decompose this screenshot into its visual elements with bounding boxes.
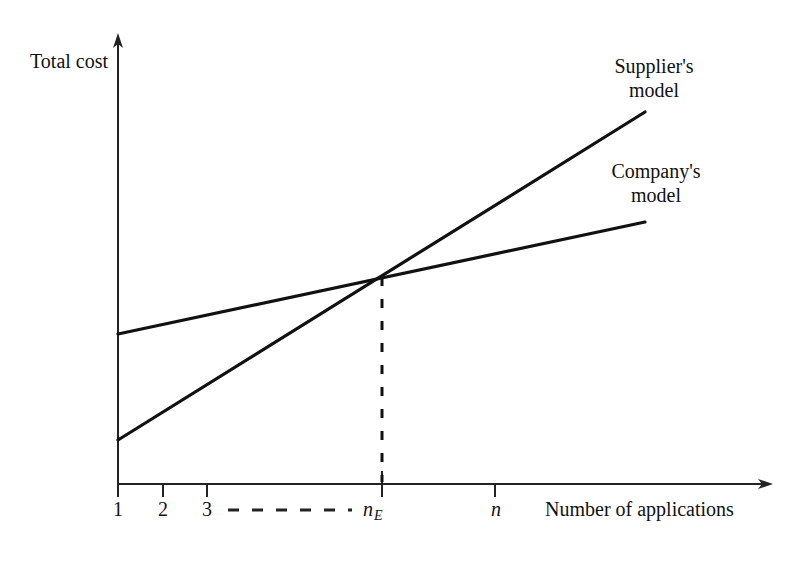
x-tick-label-ne-subscript: E — [374, 508, 383, 523]
series-label-suppliers-model-line1: Supplier's — [598, 55, 710, 79]
x-tick-label-2: 2 — [153, 498, 173, 522]
x-tick-label-1: 1 — [108, 498, 128, 522]
series-label-suppliers-model-line2: model — [598, 79, 710, 103]
x-tick-label-n: n — [486, 498, 506, 522]
x-axis — [118, 479, 773, 489]
y-axis — [113, 33, 123, 484]
chart-figure: Total cost Number of applications Suppli… — [0, 0, 811, 563]
series-label-companys-model-line2: model — [600, 184, 712, 208]
x-tick-label-3: 3 — [197, 498, 217, 522]
series-label-companys-model: Company's model — [600, 160, 712, 207]
x-tick-label-ne: nE — [363, 498, 403, 524]
series-label-companys-model-line1: Company's — [600, 160, 712, 184]
series-label-suppliers-model: Supplier's model — [598, 55, 710, 102]
y-axis-title: Total cost — [30, 50, 108, 74]
x-tick-label-ne-base: n — [363, 498, 373, 520]
x-axis-title: Number of applications — [545, 498, 734, 522]
